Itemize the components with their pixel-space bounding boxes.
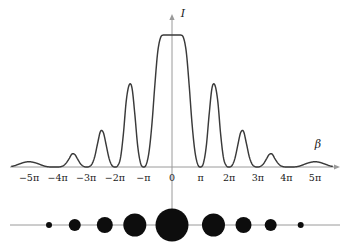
figure-svg: I β −5π−4π−3π−2π−π0π2π3π4π5π	[0, 0, 350, 246]
diffraction-spot	[46, 222, 52, 228]
diffraction-spot	[156, 209, 189, 242]
x-tick-label: 4π	[280, 172, 292, 183]
x-tick-label: −π	[136, 172, 150, 183]
diffraction-spot	[97, 217, 113, 233]
y-axis-arrowhead	[169, 14, 174, 20]
diffraction-spot	[69, 219, 81, 231]
diffraction-spot	[236, 217, 252, 233]
y-axis-label: I	[180, 7, 186, 20]
diffraction-spot	[298, 222, 304, 228]
x-tick-label: 5π	[309, 172, 321, 183]
x-tick-label: −5π	[19, 172, 39, 183]
x-tick-label: −4π	[47, 172, 67, 183]
x-axis-arrowhead	[334, 164, 340, 169]
diffraction-spot	[123, 214, 146, 237]
x-tick-label: π	[197, 172, 203, 183]
diffraction-spot	[265, 219, 277, 231]
x-axis-label: β	[314, 138, 321, 151]
diffraction-spot	[202, 214, 225, 237]
x-tick-label: 3π	[252, 172, 264, 183]
x-tick-label: −3π	[76, 172, 96, 183]
interference-figure: I β −5π−4π−3π−2π−π0π2π3π4π5π	[0, 0, 350, 246]
x-tick-label: 2π	[223, 172, 235, 183]
x-tick-label-group: −5π−4π−3π−2π−π0π2π3π4π5π	[19, 172, 321, 183]
x-tick-label: 0	[169, 172, 175, 183]
x-tick-label: −2π	[105, 172, 125, 183]
